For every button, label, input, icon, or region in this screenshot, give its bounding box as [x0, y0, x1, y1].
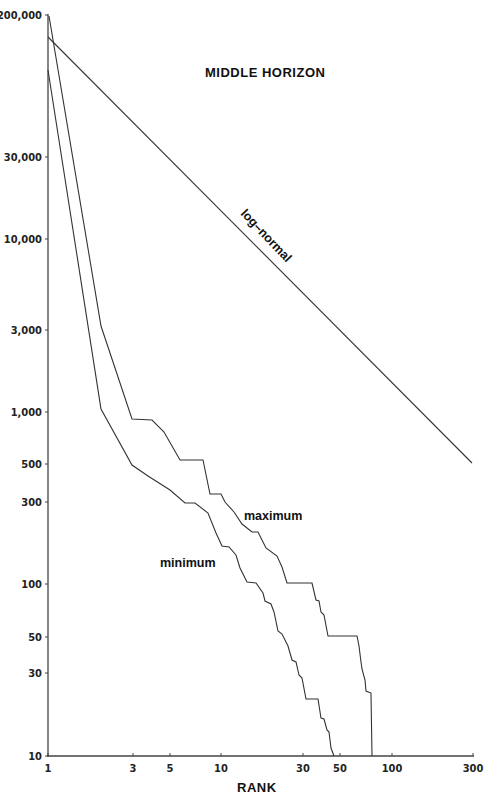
x-tick-label: 3: [130, 762, 137, 775]
x-tick-label: 10: [214, 762, 228, 775]
maximum-label: maximum: [244, 509, 302, 523]
minimum-line: [48, 70, 334, 756]
x-axis-title: RANK: [237, 780, 277, 795]
y-tick-label: 200,000: [0, 9, 42, 22]
y-tick-label: 3,000: [11, 324, 42, 337]
y-tick-label: 500: [21, 458, 42, 471]
y-axis-ticks: 200,00030,00010,0003,0001,00050030010050…: [0, 9, 48, 763]
x-tick-label: 300: [463, 762, 484, 775]
x-tick-label: 5: [167, 762, 174, 775]
x-tick-label: 100: [382, 762, 403, 775]
y-tick-label: 100: [21, 578, 42, 591]
x-axis: 135103050100300: [45, 753, 484, 775]
chart-title: MIDDLE HORIZON: [205, 65, 325, 80]
y-tick-label: 30,000: [4, 151, 42, 164]
minimum-label: minimum: [160, 556, 216, 570]
y-tick-label: 1,000: [11, 406, 42, 419]
y-tick-label: 10,000: [4, 233, 42, 246]
y-axis: 200,00030,00010,0003,0001,00050030010050…: [0, 9, 48, 763]
y-tick-label: 300: [21, 496, 42, 509]
y-tick-label: 30: [28, 667, 42, 680]
x-tick-label: 30: [296, 762, 310, 775]
lognormal-line: [48, 37, 472, 463]
y-tick-label: 10: [28, 750, 42, 763]
y-tick-label: 50: [28, 631, 42, 644]
rank-size-chart: MIDDLE HORIZON 200,00030,00010,0003,0001…: [0, 0, 487, 797]
x-tick-label: 1: [45, 762, 52, 775]
x-tick-label: 50: [333, 762, 347, 775]
